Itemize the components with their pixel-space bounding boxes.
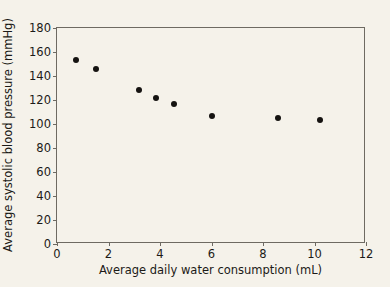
- y-tick-label: 100: [29, 117, 51, 131]
- y-tick-mark: [53, 220, 57, 221]
- y-tick-label: 80: [36, 141, 51, 155]
- x-tick-mark: [212, 242, 213, 246]
- data-point: [136, 87, 142, 93]
- x-tick-label: 4: [156, 247, 163, 261]
- y-tick-label: 40: [36, 189, 51, 203]
- plot-area: 020406080100120140160180 024681012: [56, 27, 365, 243]
- y-tick-label: 160: [29, 45, 51, 59]
- y-tick-label: 180: [29, 21, 51, 35]
- y-axis-title-label: Average systolic blood pressure (mmHg): [1, 18, 15, 252]
- data-point: [153, 95, 159, 101]
- y-tick-mark: [53, 100, 57, 101]
- y-tick-mark: [53, 76, 57, 77]
- y-tick-label: 20: [36, 213, 51, 227]
- x-tick-label: 12: [359, 247, 374, 261]
- y-tick-label: 120: [29, 93, 51, 107]
- data-point: [317, 117, 323, 123]
- x-tick-mark: [160, 242, 161, 246]
- data-point: [171, 101, 177, 107]
- x-tick-mark: [109, 242, 110, 246]
- data-point: [73, 57, 79, 63]
- y-axis-title: Average systolic blood pressure (mmHg): [0, 27, 16, 243]
- y-tick-mark: [53, 148, 57, 149]
- x-tick-label: 10: [307, 247, 322, 261]
- y-tick-label: 140: [29, 69, 51, 83]
- y-tick-label: 60: [36, 165, 51, 179]
- x-tick-mark: [57, 242, 58, 246]
- x-tick-label: 6: [208, 247, 215, 261]
- x-axis-title-label: Average daily water consumption (mL): [99, 263, 322, 277]
- x-tick-mark: [263, 242, 264, 246]
- data-point: [93, 66, 99, 72]
- x-tick-label: 0: [53, 247, 60, 261]
- y-tick-mark: [53, 196, 57, 197]
- x-tick-mark: [315, 242, 316, 246]
- y-tick-mark: [53, 28, 57, 29]
- x-tick-label: 2: [105, 247, 112, 261]
- x-tick-label: 8: [259, 247, 266, 261]
- data-point: [275, 115, 281, 121]
- x-tick-mark: [366, 242, 367, 246]
- y-tick-label: 0: [44, 237, 51, 251]
- y-tick-mark: [53, 124, 57, 125]
- data-point: [209, 113, 215, 119]
- scatter-chart-figure: Average systolic blood pressure (mmHg) 0…: [0, 0, 390, 287]
- y-tick-mark: [53, 52, 57, 53]
- y-tick-mark: [53, 172, 57, 173]
- x-axis-title: Average daily water consumption (mL): [56, 263, 365, 277]
